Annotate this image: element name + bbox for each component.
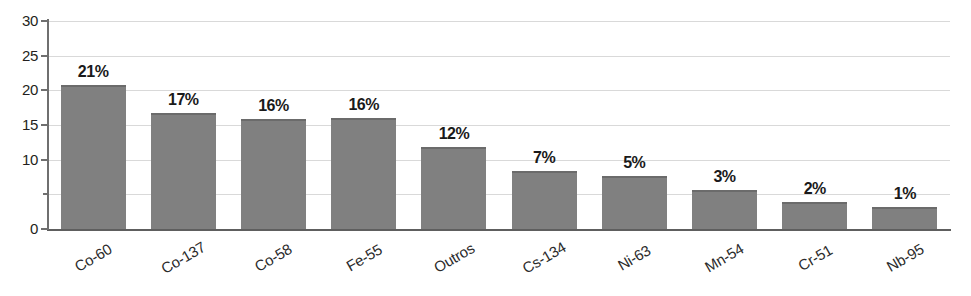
category-tick-outros: Outros — [409, 233, 499, 296]
category-label: Ni-63 — [615, 241, 654, 273]
category-tick-nb-95: Nb-95 — [860, 233, 950, 296]
category-tick-co-60: Co-60 — [48, 233, 138, 296]
bar-value-label: 16% — [319, 96, 409, 114]
x-axis-category-labels: Co-60Co-137Co-58Fe-55OutrosCs-134Ni-63Mn… — [48, 233, 950, 296]
y-tick-label: 20 — [2, 80, 38, 100]
category-label: Cr-51 — [795, 241, 835, 274]
bar[interactable] — [241, 119, 306, 229]
y-tick-label: 25 — [2, 46, 38, 66]
bar-chart: 01015202530 21%17%16%16%12%7%5%3%2%1% Co… — [0, 0, 971, 296]
bar[interactable] — [421, 147, 486, 230]
category-tick-mn-54: Mn-54 — [679, 233, 769, 296]
bar-value-label: 17% — [138, 91, 228, 109]
bar-group: 1% — [860, 21, 950, 229]
category-label: Co-60 — [72, 240, 115, 275]
y-tick-label: 30 — [2, 11, 38, 31]
category-tick-cs-134: Cs-134 — [499, 233, 589, 296]
bar-group: 21% — [48, 21, 138, 229]
bar[interactable] — [602, 176, 667, 229]
bar[interactable] — [872, 207, 937, 229]
bar-value-label: 5% — [589, 154, 679, 172]
category-label: Co-58 — [252, 240, 295, 275]
bar[interactable] — [782, 202, 847, 229]
bar-value-label: 12% — [409, 125, 499, 143]
bar-value-label: 1% — [860, 185, 950, 203]
category-tick-ni-63: Ni-63 — [589, 233, 679, 296]
bar-group: 16% — [319, 21, 409, 229]
x-axis-line — [47, 229, 951, 231]
category-label: Mn-54 — [702, 240, 746, 275]
bar-group: 3% — [679, 21, 769, 229]
bar-value-label: 7% — [499, 149, 589, 167]
category-label: Co-137 — [158, 238, 208, 277]
bar[interactable] — [61, 85, 126, 229]
category-label: Outros — [431, 239, 477, 276]
bar-group: 12% — [409, 21, 499, 229]
y-tick-label: 10 — [2, 150, 38, 170]
category-label: Cs-134 — [519, 238, 568, 276]
category-tick-cr-51: Cr-51 — [770, 233, 860, 296]
bar[interactable] — [151, 113, 216, 229]
category-tick-fe-55: Fe-55 — [319, 233, 409, 296]
category-label: Nb-95 — [883, 240, 926, 275]
bar-group: 17% — [138, 21, 228, 229]
bar-group: 2% — [770, 21, 860, 229]
bar-group: 16% — [228, 21, 318, 229]
category-label: Fe-55 — [343, 241, 385, 275]
bar-value-label: 16% — [228, 97, 318, 115]
category-tick-co-58: Co-58 — [228, 233, 318, 296]
bar-value-label: 3% — [679, 168, 769, 186]
bar[interactable] — [692, 190, 757, 229]
y-tick-label: 15 — [2, 115, 38, 135]
y-tick-label: 0 — [2, 219, 38, 239]
bar-value-label: 21% — [48, 63, 138, 81]
category-tick-co-137: Co-137 — [138, 233, 228, 296]
bar-group: 7% — [499, 21, 589, 229]
bar[interactable] — [512, 171, 577, 229]
bar-group: 5% — [589, 21, 679, 229]
bar[interactable] — [331, 118, 396, 229]
bar-value-label: 2% — [770, 180, 860, 198]
bars-group: 21%17%16%16%12%7%5%3%2%1% — [48, 21, 950, 229]
